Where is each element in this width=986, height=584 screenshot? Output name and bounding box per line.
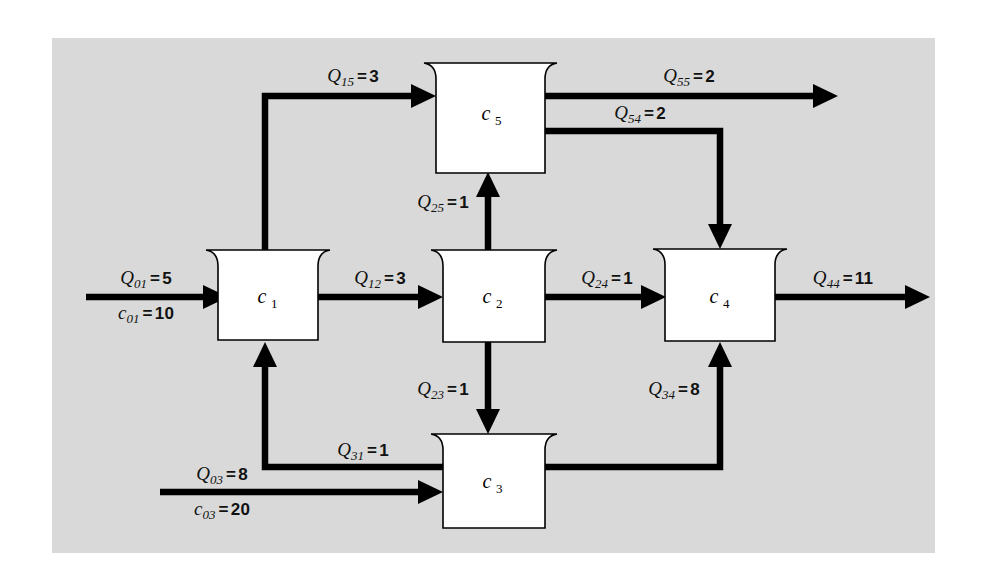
flow-label-Q23-subscript: 23: [431, 387, 444, 402]
flow-label-Q24-equals: =: [611, 269, 621, 288]
flow-label-Q23-value: 1: [459, 380, 469, 399]
tank-c2-label: c: [483, 285, 492, 307]
flow-label-Q44-symbol: Q: [813, 267, 827, 288]
flow-label-Q12-subscript: 12: [368, 276, 381, 291]
flow-label-Q24-value: 1: [623, 269, 633, 288]
flow-label-Q44-equals: =: [843, 269, 853, 288]
flow-label-c03-symbol: c: [194, 498, 203, 519]
flow-label-Q31-subscript: 31: [351, 448, 364, 463]
tank-c5: c 5: [424, 63, 557, 173]
flow-label-Q55: Q55=2: [663, 66, 715, 88]
tank-c4: c 4: [653, 249, 787, 341]
flow-label-Q01-value: 5: [162, 269, 172, 288]
flow-label-Q34-equals: =: [678, 380, 688, 399]
flow-label-Q25-equals: =: [447, 193, 457, 212]
flow-label-Q54-value: 2: [656, 104, 666, 123]
flow-label-Q31-symbol: Q: [337, 439, 351, 460]
tank-c4-subscript: 4: [723, 296, 730, 311]
flow-label-c01-symbol: c: [118, 302, 127, 323]
flow-label-Q12: Q12=3: [354, 268, 406, 290]
flow-label-Q34-subscript: 34: [662, 387, 675, 402]
tank-c1-subscript: 1: [271, 296, 278, 311]
flow-label-Q15-equals: =: [357, 67, 367, 86]
flow-label-Q23-symbol: Q: [417, 378, 431, 399]
flow-label-Q54: Q54=2: [614, 103, 666, 125]
flow-label-Q12-equals: =: [384, 269, 394, 288]
flow-label-Q03-subscript: 03: [210, 472, 223, 487]
flow-label-Q54-subscript: 54: [628, 111, 641, 126]
flow-label-Q01-symbol: Q: [120, 267, 134, 288]
flow-label-Q24: Q24=1: [581, 268, 633, 290]
flow-label-Q34: Q34=8: [648, 379, 700, 401]
flow-label-Q03-equals: =: [226, 465, 236, 484]
flow-label-Q55-subscript: 55: [677, 74, 690, 89]
tank-c2-subscript: 2: [496, 296, 503, 311]
flow-label-Q23: Q23=1: [417, 379, 469, 401]
flow-label-Q55-value: 2: [705, 67, 715, 86]
flow-label-Q31: Q31=1: [337, 440, 389, 462]
tank-c1-label: c: [258, 285, 267, 307]
flow-label-Q12-symbol: Q: [354, 267, 368, 288]
flow-label-Q23-equals: =: [447, 380, 457, 399]
flow-label-Q54-equals: =: [644, 104, 654, 123]
flow-label-Q03-value: 8: [238, 465, 248, 484]
flow-label-c03-subscript: 03: [203, 507, 216, 522]
flow-label-Q54-symbol: Q: [614, 102, 628, 123]
flow-label-Q12-value: 3: [396, 269, 406, 288]
flow-label-Q24-subscript: 24: [595, 276, 608, 291]
flow-label-c03: c03=20: [194, 499, 250, 521]
flow-label-c03-value: 20: [231, 500, 250, 519]
flow-diagram-figure: c 1 c 2 c 3 c 4 c 5 Q01=5 c01=10: [0, 0, 986, 584]
flow-label-Q55-symbol: Q: [663, 65, 677, 86]
flow-label-Q34-value: 8: [690, 380, 700, 399]
flow-label-Q24-symbol: Q: [581, 267, 595, 288]
flow-label-Q03: Q03=8: [196, 464, 248, 486]
flow-label-c01-equals: =: [143, 304, 153, 323]
tank-c5-label: c: [482, 102, 491, 124]
flow-label-Q34-symbol: Q: [648, 378, 662, 399]
flow-label-Q01-equals: =: [150, 269, 160, 288]
tank-c3: c 3: [431, 434, 557, 528]
tank-c4-label: c: [710, 285, 719, 307]
flow-label-Q44-subscript: 44: [827, 276, 840, 291]
flow-label-Q03-symbol: Q: [196, 463, 210, 484]
flow-label-Q25-symbol: Q: [417, 191, 431, 212]
flow-label-Q15-value: 3: [369, 67, 379, 86]
flow-label-Q15: Q15=3: [327, 66, 379, 88]
flow-label-Q31-value: 1: [379, 441, 389, 460]
flow-label-c01: c01=10: [118, 303, 174, 325]
flow-label-Q44: Q44=11: [813, 268, 873, 290]
flow-label-Q25-value: 1: [459, 193, 469, 212]
flow-label-Q15-symbol: Q: [327, 65, 341, 86]
diagram-canvas: c 1 c 2 c 3 c 4 c 5: [0, 0, 986, 584]
flow-label-Q25-subscript: 25: [431, 200, 444, 215]
flow-label-Q01: Q01=5: [120, 268, 172, 290]
flow-label-Q25: Q25=1: [417, 192, 469, 214]
flow-label-c01-subscript: 01: [127, 311, 140, 326]
tank-c3-label: c: [483, 470, 492, 492]
flow-label-c01-value: 10: [155, 304, 174, 323]
tank-c5-subscript: 5: [495, 113, 502, 128]
flow-label-Q15-subscript: 15: [341, 74, 354, 89]
flow-label-Q55-equals: =: [693, 67, 703, 86]
tank-c3-subscript: 3: [496, 481, 503, 496]
flow-label-c03-equals: =: [219, 500, 229, 519]
tank-c2: c 2: [431, 250, 557, 342]
tank-c1: c 1: [206, 250, 330, 340]
flow-label-Q44-value: 11: [855, 269, 873, 288]
flow-label-Q01-subscript: 01: [134, 276, 147, 291]
flow-label-Q31-equals: =: [367, 441, 377, 460]
